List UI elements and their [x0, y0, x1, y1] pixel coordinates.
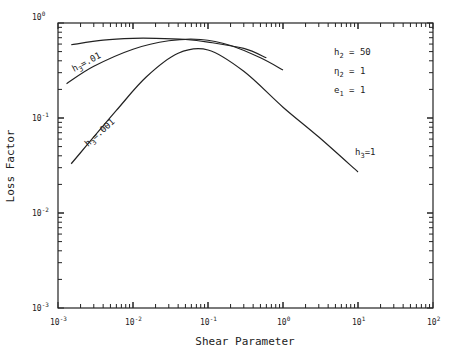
y-tick-label: 10-1 [32, 111, 49, 123]
x-tick-label: 10-3 [50, 315, 67, 327]
y-tick-label: 100 [32, 10, 46, 22]
annotation-e1: e1 = 1 [334, 85, 365, 98]
curve-h3-001-h3-1 [71, 48, 358, 172]
data-curves [67, 38, 358, 172]
axis-ticks [58, 23, 433, 308]
y-tick-label: 10-2 [32, 206, 49, 218]
curve-label-h3-1: h3=1 [355, 147, 375, 160]
chart-canvas: 100 10-1 10-2 10-3 10-3 10-2 10-1 100 10… [0, 0, 450, 355]
annotation-h2: h2 = 50 [334, 47, 371, 60]
x-tick-label: 102 [427, 315, 441, 327]
x-tick-label: 10-2 [125, 315, 142, 327]
x-tick-label: 100 [277, 315, 291, 327]
curve-label-h3-001: h3=.001 [83, 116, 119, 150]
x-tick-label: 10-1 [200, 315, 217, 327]
annotation-eta2: η2 = 1 [334, 66, 365, 79]
x-axis-title: Shear Parameter [195, 335, 295, 348]
plot-frame [58, 23, 433, 308]
x-tick-label: 101 [352, 315, 366, 327]
y-tick-label: 10-3 [32, 301, 49, 313]
y-axis-title: Loss Factor [4, 129, 17, 202]
